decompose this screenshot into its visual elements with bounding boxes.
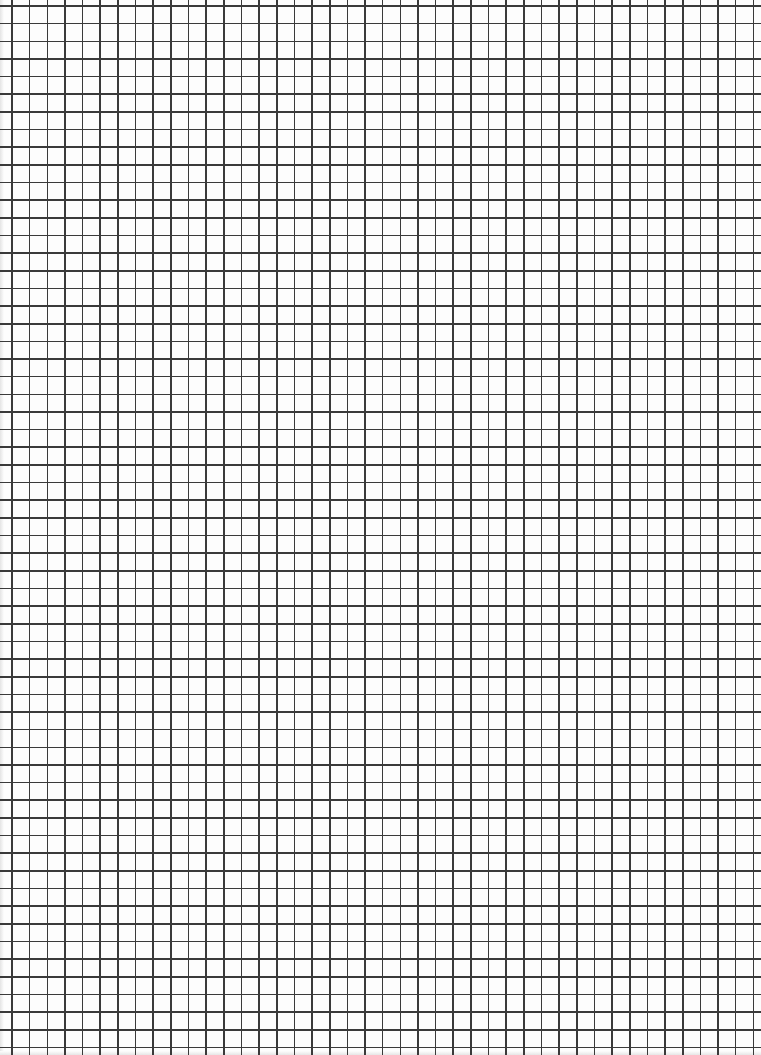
grid-lines xyxy=(0,0,761,1055)
graph-paper-sheet xyxy=(0,0,761,1055)
